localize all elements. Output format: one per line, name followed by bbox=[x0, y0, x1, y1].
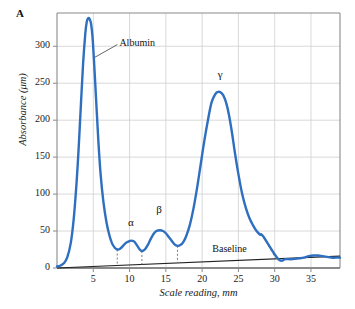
x-tick-label-10: 10 bbox=[117, 273, 143, 284]
x-tick-label-15: 15 bbox=[153, 273, 179, 284]
x-tick-label-5: 5 bbox=[80, 273, 106, 284]
figure-panel: A Absorbance (μm) Scale reading, mm 0501… bbox=[0, 0, 355, 309]
y-tick-label-300: 300 bbox=[16, 39, 50, 50]
chart-canvas bbox=[0, 0, 355, 309]
x-tick-label-35: 35 bbox=[298, 273, 324, 284]
y-tick-label-200: 200 bbox=[16, 113, 50, 124]
x-tick-label-30: 30 bbox=[262, 273, 288, 284]
x-axis-title: Scale reading, mm bbox=[57, 287, 340, 298]
x-tick-label-25: 25 bbox=[225, 273, 251, 284]
annotation-alpha: α bbox=[128, 216, 134, 228]
annotation-beta: β bbox=[156, 203, 162, 215]
y-tick-label-0: 0 bbox=[16, 261, 50, 272]
annotation-gamma: γ bbox=[218, 68, 223, 80]
annotation-albumin: Albumin bbox=[119, 37, 155, 48]
x-tick-label-20: 20 bbox=[189, 273, 215, 284]
y-tick-label-150: 150 bbox=[16, 150, 50, 161]
y-tick-label-100: 100 bbox=[16, 187, 50, 198]
annotation-baseline: Baseline bbox=[212, 243, 246, 254]
y-tick-label-50: 50 bbox=[16, 224, 50, 235]
y-tick-label-250: 250 bbox=[16, 76, 50, 87]
